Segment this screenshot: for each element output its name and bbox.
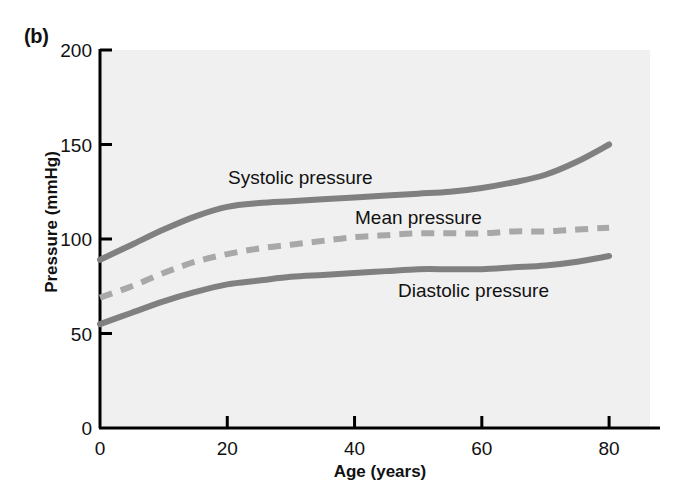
y-tick-label: 200 — [60, 40, 92, 61]
x-tick-label: 80 — [599, 438, 620, 459]
x-tick-label: 20 — [217, 438, 238, 459]
y-tick-label: 0 — [81, 418, 92, 439]
x-tick-label: 0 — [95, 438, 106, 459]
line-chart: 050100150200 020406080 Systolic pressure… — [0, 0, 679, 497]
figure-panel: (b) Pressure (mmHg) Age (years) 05010015… — [0, 0, 679, 497]
series-annotation-1: Systolic pressure — [228, 167, 373, 188]
x-tick-label: 40 — [344, 438, 365, 459]
series-annotation-3: Diastolic pressure — [398, 280, 549, 301]
x-tick-label: 60 — [471, 438, 492, 459]
y-tick-label: 50 — [71, 324, 92, 345]
plot-area-background — [100, 50, 650, 428]
series-annotation-2: Mean pressure — [355, 207, 482, 228]
y-tick-label: 150 — [60, 135, 92, 156]
y-tick-label: 100 — [60, 229, 92, 250]
